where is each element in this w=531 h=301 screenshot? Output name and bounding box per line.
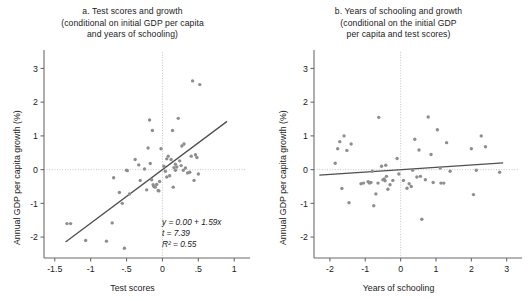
svg-text:-2: -2 xyxy=(326,264,334,274)
panel-a-r2-line: R² = 0.55 xyxy=(162,239,222,250)
svg-text:-.5: -.5 xyxy=(121,264,131,274)
svg-text:2: 2 xyxy=(469,264,474,274)
panel-b-x-axis-label: Years of schooling xyxy=(266,283,531,293)
svg-text:3: 3 xyxy=(303,64,308,74)
figure-container: a. Test scores and growth (conditional o… xyxy=(0,0,531,301)
panel-b-years-of-schooling: b. Years of schooling and growth (condit… xyxy=(266,0,531,301)
svg-text:0: 0 xyxy=(303,165,308,175)
svg-text:1: 1 xyxy=(303,131,308,141)
panel-a-x-axis-label: Test scores xyxy=(0,283,265,293)
panel-a-tstat-line: t = 7.39 xyxy=(162,228,222,239)
svg-text:-1.5: -1.5 xyxy=(47,264,62,274)
svg-text:-2: -2 xyxy=(300,232,308,242)
panel-a-y-axis-label: Annual GDP per capita growth (%) xyxy=(12,110,22,245)
svg-text:-1: -1 xyxy=(30,199,38,209)
svg-text:-1: -1 xyxy=(300,199,308,209)
svg-text:1: 1 xyxy=(434,264,439,274)
panel-a-test-scores: a. Test scores and growth (conditional o… xyxy=(0,0,265,301)
svg-text:-2: -2 xyxy=(30,232,38,242)
svg-text:3: 3 xyxy=(33,64,38,74)
svg-text:1: 1 xyxy=(232,264,237,274)
svg-text:-1: -1 xyxy=(87,264,95,274)
svg-text:.5: .5 xyxy=(195,264,202,274)
svg-text:-1: -1 xyxy=(361,264,369,274)
svg-text:2: 2 xyxy=(303,97,308,107)
svg-text:3: 3 xyxy=(504,264,509,274)
panel-a-equation-line: y = 0.00 + 1.59x xyxy=(162,217,222,228)
svg-text:0: 0 xyxy=(398,264,403,274)
panel-b-plot-area: -2-10123-2-10123 xyxy=(266,0,531,301)
panel-a-equation-annotation: y = 0.00 + 1.59x t = 7.39 R² = 0.55 xyxy=(162,217,222,250)
svg-text:0: 0 xyxy=(33,165,38,175)
svg-text:2: 2 xyxy=(33,97,38,107)
svg-text:0: 0 xyxy=(160,264,165,274)
panel-a-plot-area: -2-10123-1.5-1-.50.51 xyxy=(0,0,265,301)
panel-b-y-axis-label: Annual GDP per capita growth (%) xyxy=(278,110,288,245)
svg-text:1: 1 xyxy=(33,131,38,141)
